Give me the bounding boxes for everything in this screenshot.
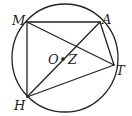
label-o: O bbox=[48, 52, 59, 67]
segment-th bbox=[27, 65, 114, 97]
label-a: A bbox=[101, 12, 111, 27]
center-point-o bbox=[61, 57, 65, 61]
label-m: M bbox=[11, 13, 26, 28]
geometry-diagram: M A O Z T H bbox=[0, 0, 132, 116]
label-t: T bbox=[116, 63, 126, 78]
label-z: Z bbox=[67, 52, 78, 67]
label-h: H bbox=[13, 98, 26, 113]
